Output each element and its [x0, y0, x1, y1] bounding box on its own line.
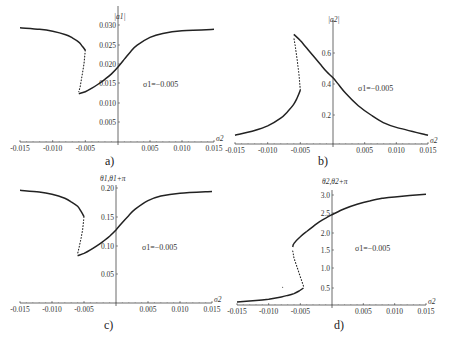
panel-label-a: a): [105, 154, 114, 169]
x-tick-label: -0.005: [291, 307, 311, 316]
x-tick-label: 0.010: [172, 305, 189, 314]
chart-canvas: -0.015-0.010-0.0050.0050.0100.015σ20.005…: [0, 0, 453, 345]
y-tick-label: 0.15: [101, 213, 114, 222]
stable-branch-curve: [237, 288, 304, 302]
stable-branch-curve: [20, 190, 84, 216]
x-tick-label: -0.015: [227, 307, 247, 316]
panel-label-d: d): [334, 318, 344, 333]
subplot-c: -0.015-0.010-0.0050.0050.0100.015σ20.050…: [10, 174, 221, 314]
x-tick-label: 0.010: [174, 144, 191, 153]
y-tick-label: 0.2: [322, 111, 332, 120]
y-tick-label: 0.015: [99, 79, 116, 88]
x-tick-label: 0.010: [386, 307, 403, 316]
x-axis-label: σ2: [428, 297, 436, 306]
x-tick-label: 0.005: [142, 144, 159, 153]
unstable-branch-curve: [293, 251, 304, 286]
x-tick-label: -0.005: [76, 144, 96, 153]
isolated-point: [282, 287, 283, 288]
x-tick-label: 0.015: [420, 146, 437, 155]
x-tick-label: -0.015: [10, 305, 30, 314]
y-tick-label: 3.0: [321, 191, 331, 200]
x-tick-label: -0.015: [10, 144, 30, 153]
stable-branch-curve: [293, 194, 426, 247]
x-tick-label: -0.015: [225, 146, 245, 155]
subplot-a: -0.015-0.010-0.0050.0050.0100.015σ20.005…: [10, 6, 223, 153]
x-axis-label: σ2: [214, 295, 222, 304]
subplot-d: -0.015-0.010-0.0050.0050.0100.015σ20.51.…: [227, 177, 435, 316]
x-tick-label: 0.005: [355, 307, 372, 316]
x-tick-label: 0.010: [388, 146, 405, 155]
y-axis-label: |a1|: [114, 12, 126, 21]
y-tick-label: 0.030: [99, 21, 116, 30]
y-tick-label: 0.010: [99, 99, 116, 108]
stable-branch-curve: [20, 28, 85, 51]
y-axis-label: θ1,θ1+π: [100, 174, 126, 183]
x-axis-label: σ2: [216, 134, 224, 143]
subplot-b: -0.015-0.010-0.0050.0050.0100.015σ20.20.…: [225, 15, 437, 155]
x-tick-label: -0.005: [291, 146, 311, 155]
y-tick-label: 0.005: [99, 118, 116, 127]
sigma-annotation: σ1=−0.005: [358, 84, 393, 93]
y-tick-label: 0.6: [322, 49, 332, 58]
unstable-branch-curve: [294, 38, 301, 91]
x-tick-label: -0.010: [259, 307, 279, 316]
y-tick-label: 0.05: [101, 270, 114, 279]
y-tick-label: 0.5: [321, 284, 331, 293]
y-tick-label: 0.025: [99, 41, 116, 50]
x-tick-label: 0.015: [206, 144, 223, 153]
x-tick-label: 0.005: [140, 305, 157, 314]
y-axis-label: θ2,θ2+π: [322, 177, 348, 186]
unstable-branch-curve: [78, 217, 84, 254]
x-axis-label: σ2: [430, 136, 438, 145]
y-tick-label: 0.10: [101, 242, 114, 251]
sigma-annotation: σ1=−0.005: [142, 243, 177, 252]
x-tick-label: -0.010: [42, 305, 62, 314]
y-tick-label: 1.5: [321, 246, 331, 255]
y-tick-label: 1.0: [321, 264, 331, 273]
x-tick-label: 0.015: [418, 307, 435, 316]
y-tick-label: 0.20: [101, 184, 114, 193]
sigma-annotation: σ1=−0.005: [355, 244, 390, 253]
x-tick-label: -0.005: [74, 305, 94, 314]
panel-label-b: b): [318, 154, 328, 169]
sigma-annotation: σ1=−0.005: [143, 80, 178, 89]
y-axis-label: |a2|: [328, 15, 340, 24]
panel-label-c: c): [104, 318, 113, 333]
x-tick-label: -0.010: [258, 146, 278, 155]
unstable-branch-curve: [79, 50, 86, 91]
stable-branch-curve: [235, 90, 300, 135]
x-tick-label: 0.005: [356, 146, 373, 155]
y-tick-label: 2.0: [321, 229, 331, 238]
x-tick-label: 0.015: [204, 305, 221, 314]
y-tick-label: 0.4: [322, 80, 332, 89]
x-tick-label: -0.010: [43, 144, 63, 153]
y-tick-label: 0.020: [99, 60, 116, 69]
